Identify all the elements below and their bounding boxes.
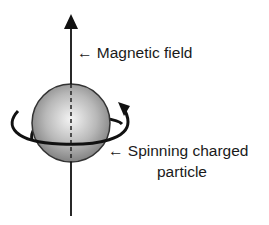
spin-diagram: [0, 0, 269, 225]
magnetic-field-arrowhead-icon: [64, 14, 78, 29]
particle-label-line2: particle: [157, 164, 207, 180]
rotation-arrowhead-icon: [118, 102, 130, 116]
particle-label-line1: ← Spinning charged: [108, 143, 248, 159]
magnetic-field-label: ← Magnetic field: [77, 45, 192, 61]
